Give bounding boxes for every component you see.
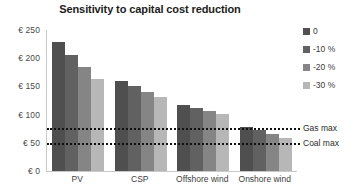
y-axis-tick-label: € 200 [18, 53, 40, 63]
reference-line [47, 128, 300, 130]
legend-label: -20 % [313, 62, 335, 72]
reference-line [47, 143, 300, 145]
y-axis-tick-label: € 100 [18, 110, 40, 120]
bar-group-onshore-wind [240, 30, 292, 171]
bar[interactable] [266, 134, 279, 171]
bar[interactable] [240, 127, 253, 171]
y-axis-tick-label: € 250 [18, 25, 40, 35]
bar[interactable] [177, 105, 190, 171]
y-axis: € 250€ 200€ 150€ 100€ 50€ 0 [0, 30, 43, 171]
y-axis-tick-label: € 0 [28, 166, 40, 176]
x-axis-tick-label: Offshore wind [176, 174, 228, 184]
bar[interactable] [115, 81, 128, 171]
bar[interactable] [141, 92, 154, 171]
bar-group-pv [52, 30, 104, 171]
legend-item[interactable]: -10 % [303, 40, 358, 58]
bar[interactable] [190, 108, 203, 171]
bar[interactable] [154, 97, 167, 171]
reference-line-label: Coal max [303, 138, 339, 148]
x-axis-tick-label: Onshore wind [239, 174, 291, 184]
legend-swatch-icon [303, 82, 310, 89]
x-axis-tick-label: PV [72, 174, 83, 184]
reference-line-label: Gas max [303, 123, 337, 133]
legend-item[interactable]: -20 % [303, 58, 358, 76]
bar-group-csp [115, 30, 167, 171]
legend-label: -30 % [313, 80, 335, 90]
bar[interactable] [203, 111, 216, 171]
bar[interactable] [78, 67, 91, 171]
legend-label: -10 % [313, 44, 335, 54]
y-axis-tick-label: € 150 [18, 81, 40, 91]
bar[interactable] [91, 79, 104, 171]
legend-swatch-icon [303, 46, 310, 53]
legend-swatch-icon [303, 28, 310, 35]
chart-legend: 0-10 %-20 %-30 % [303, 22, 358, 94]
legend-label: 0 [313, 26, 318, 36]
chart-title: Sensitivity to capital cost reduction [0, 3, 300, 15]
legend-swatch-icon [303, 64, 310, 71]
x-axis: PVCSPOffshore windOnshore wind [46, 174, 298, 190]
bar[interactable] [253, 130, 266, 171]
x-axis-tick-label: CSP [131, 174, 148, 184]
legend-item[interactable]: -30 % [303, 76, 358, 94]
plot-area [46, 30, 297, 172]
legend-item[interactable]: 0 [303, 22, 358, 40]
bar-group-offshore-wind [177, 30, 229, 171]
y-axis-tick-label: € 50 [23, 138, 40, 148]
bar[interactable] [52, 42, 65, 171]
chart-container: Sensitivity to capital cost reduction € … [0, 0, 358, 193]
bar[interactable] [65, 55, 78, 171]
